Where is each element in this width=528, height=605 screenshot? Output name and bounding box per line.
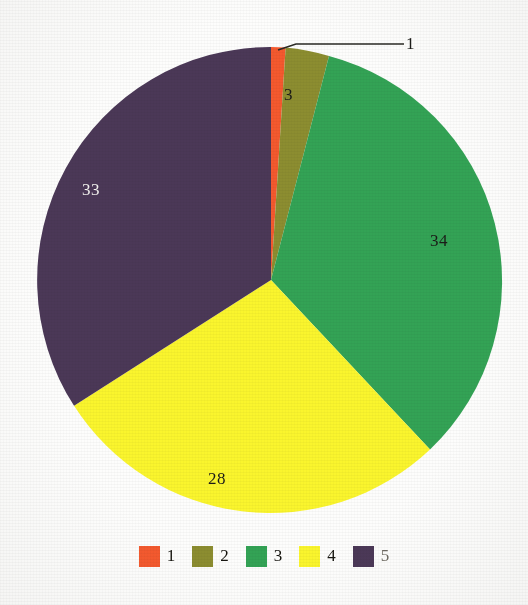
legend-label-1: 1: [167, 546, 176, 566]
legend-swatch-5-icon: [353, 546, 374, 567]
legend-item-3[interactable]: 3: [246, 546, 283, 567]
legend-item-4[interactable]: 4: [299, 546, 336, 567]
legend-swatch-1-icon: [139, 546, 160, 567]
legend-swatch-2-icon: [192, 546, 213, 567]
legend-swatch-3-icon: [246, 546, 267, 567]
legend-swatch-4-icon: [299, 546, 320, 567]
pie-chart: 1 3 34 28 33: [0, 0, 528, 528]
legend-label-5: 5: [381, 546, 390, 566]
pie-svg: [0, 0, 528, 528]
legend-label-2: 2: [220, 546, 229, 566]
legend-item-1[interactable]: 1: [139, 546, 176, 567]
legend-label-3: 3: [274, 546, 283, 566]
legend: 1 2 3 4 5: [0, 531, 528, 581]
legend-item-5[interactable]: 5: [353, 546, 390, 567]
legend-label-4: 4: [327, 546, 336, 566]
pie-chart-page: 1 3 34 28 33 1 2 3 4 5: [0, 0, 528, 605]
legend-item-2[interactable]: 2: [192, 546, 229, 567]
